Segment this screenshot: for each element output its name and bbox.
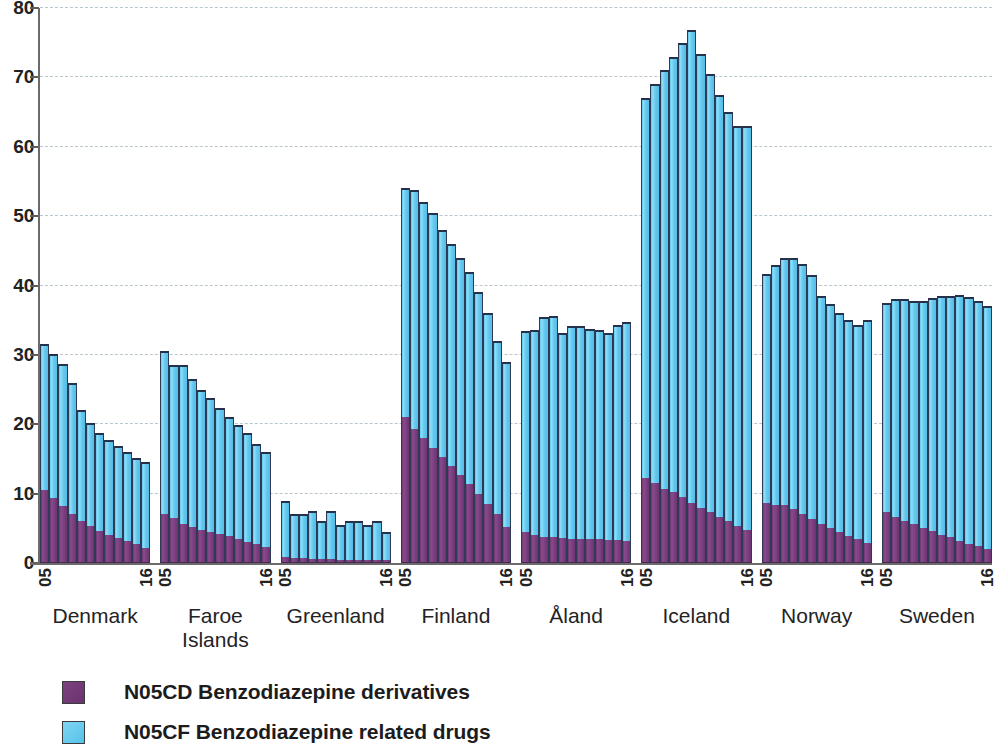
country-label-iceland: Iceland xyxy=(663,604,731,628)
bar-segment-n05cf xyxy=(817,296,826,524)
bar-segment-n05cf xyxy=(197,390,206,530)
plot-area: 80706050403020100 xyxy=(0,0,997,575)
bar-segment-n05cf xyxy=(900,299,909,521)
bar xyxy=(585,0,594,563)
bar-segment-n05cd xyxy=(687,503,696,563)
bar xyxy=(567,0,576,563)
bar-segment-n05cf xyxy=(336,525,345,560)
bar-segment-n05cd xyxy=(197,530,206,563)
bar-segment-n05cf xyxy=(465,272,474,484)
bar xyxy=(696,0,705,563)
bar-group-åland xyxy=(521,0,631,563)
bar xyxy=(215,0,224,563)
bar-segment-n05cf xyxy=(706,74,715,512)
bar-segment-n05cd xyxy=(336,560,345,563)
bar-segment-n05cd xyxy=(428,448,437,563)
bar xyxy=(641,0,650,563)
bar-segment-n05cd xyxy=(928,531,937,563)
bar-segment-n05cd xyxy=(493,514,502,563)
bar xyxy=(114,0,123,563)
bar-segment-n05cf xyxy=(946,296,955,537)
bar-segment-n05cd xyxy=(465,484,474,563)
bar xyxy=(622,0,631,563)
bar-segment-n05cf xyxy=(419,202,428,438)
bar xyxy=(483,0,492,563)
x-tick-label-end: 16 xyxy=(498,568,515,587)
bar xyxy=(742,0,751,563)
bar-segment-n05cf xyxy=(771,265,780,505)
bar-segment-n05cf xyxy=(964,297,973,544)
bar-segment-n05cf xyxy=(835,313,844,532)
y-tick-label: 50 xyxy=(0,205,34,227)
bar-group-sweden xyxy=(882,0,992,563)
bar-segment-n05cf xyxy=(660,70,669,488)
bar-segment-n05cf xyxy=(530,330,539,535)
bar xyxy=(354,0,363,563)
bar-segment-n05cf xyxy=(826,304,835,528)
bar-segment-n05cf xyxy=(844,320,853,536)
bar-segment-n05cd xyxy=(585,539,594,563)
bar-segment-n05cf xyxy=(678,43,687,497)
bar xyxy=(715,0,724,563)
y-tick-label: 10 xyxy=(0,483,34,505)
bar-segment-n05cf xyxy=(206,398,215,532)
bar xyxy=(669,0,678,563)
bar xyxy=(68,0,77,563)
bar-segment-n05cd xyxy=(798,514,807,563)
bar xyxy=(964,0,973,563)
bar-segment-n05cd xyxy=(243,542,252,564)
bar-segment-n05cd xyxy=(363,560,372,563)
bar-segment-n05cf xyxy=(974,301,983,546)
bar xyxy=(179,0,188,563)
bar-segment-n05cf xyxy=(780,258,789,505)
bar-segment-n05cf xyxy=(669,57,678,492)
bar-segment-n05cf xyxy=(169,365,178,518)
bar-segment-n05cd xyxy=(891,517,900,563)
bar-segment-n05cf xyxy=(428,213,437,448)
bar-segment-n05cf xyxy=(372,521,381,560)
bar-segment-n05cd xyxy=(188,527,197,563)
bar xyxy=(382,0,391,563)
bar-segment-n05cf xyxy=(687,30,696,503)
bar xyxy=(290,0,299,563)
bar xyxy=(595,0,604,563)
x-tick-label-start: 05 xyxy=(157,568,174,587)
bar-segment-n05cf xyxy=(225,417,234,536)
bar-segment-n05cd xyxy=(900,521,909,563)
bar-segment-n05cf xyxy=(604,333,613,540)
bar-segment-n05cd xyxy=(95,531,104,563)
bar-segment-n05cf xyxy=(928,298,937,531)
bar-segment-n05cd xyxy=(419,438,428,563)
bar-segment-n05cf xyxy=(345,521,354,559)
bar xyxy=(937,0,946,563)
bar-segment-n05cd xyxy=(844,536,853,563)
bar xyxy=(317,0,326,563)
bar-segment-n05cd xyxy=(641,478,650,563)
bar-segment-n05cd xyxy=(132,544,141,563)
bar xyxy=(687,0,696,563)
x-tick-label-start: 05 xyxy=(758,568,775,587)
bar xyxy=(650,0,659,563)
bar xyxy=(225,0,234,563)
bar xyxy=(132,0,141,563)
y-tick-label: 70 xyxy=(0,66,34,88)
bar-segment-n05cf xyxy=(539,317,548,537)
bar-segment-n05cd xyxy=(733,526,742,563)
bar xyxy=(169,0,178,563)
bar-segment-n05cd xyxy=(530,535,539,563)
bar xyxy=(206,0,215,563)
bar-segment-n05cd xyxy=(281,557,290,563)
bar-segment-n05cf xyxy=(696,54,705,507)
bar-segment-n05cf xyxy=(261,452,270,547)
bar xyxy=(456,0,465,563)
bar xyxy=(502,0,511,563)
bar-segment-n05cd xyxy=(372,560,381,563)
bar-segment-n05cd xyxy=(521,532,530,563)
bar-segment-n05cd xyxy=(123,541,132,563)
bar xyxy=(160,0,169,563)
bar-segment-n05cd xyxy=(114,538,123,563)
bar xyxy=(438,0,447,563)
bar-segment-n05cd xyxy=(438,457,447,563)
bar-segment-n05cd xyxy=(234,539,243,563)
bar-segment-n05cd xyxy=(604,540,613,563)
